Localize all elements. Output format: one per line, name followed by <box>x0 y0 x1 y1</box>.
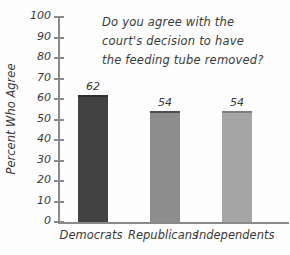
y-tick-label: 0 <box>15 214 51 227</box>
y-tick-mark <box>54 78 64 80</box>
bar-value-label: 54 <box>230 96 244 109</box>
y-tick-label: 90 <box>15 30 51 43</box>
y-tick-label: 50 <box>15 112 51 125</box>
y-tick-label: 100 <box>15 9 51 22</box>
plot-area: 0 10 20 30 40 50 60 70 <box>58 17 289 224</box>
bar-group-republicans: 54 <box>150 17 180 222</box>
y-tick-mark <box>54 160 64 162</box>
bar-democrats <box>78 95 108 222</box>
y-tick-label: 30 <box>15 153 51 166</box>
x-axis-labels: Democrats Republicans Independents <box>58 228 287 246</box>
y-tick-mark <box>54 201 64 203</box>
y-tick-label: 60 <box>15 91 51 104</box>
x-axis-label-independents: Independents <box>190 228 280 242</box>
bar-republicans <box>150 111 180 222</box>
y-tick-label: 80 <box>15 50 51 63</box>
y-tick-mark <box>54 98 64 100</box>
y-tick-mark <box>54 16 64 18</box>
y-tick-mark <box>54 119 64 121</box>
bar-group-democrats: 62 <box>78 17 108 222</box>
y-tick-label: 40 <box>15 132 51 145</box>
y-tick-mark <box>54 180 64 182</box>
y-tick-label: 10 <box>15 194 51 207</box>
y-tick-label: 70 <box>15 71 51 84</box>
bar-value-label: 54 <box>158 96 172 109</box>
bar-group-independents: 54 <box>222 17 252 222</box>
y-tick-label: 20 <box>15 173 51 186</box>
y-tick-mark <box>54 139 64 141</box>
bar-independents <box>222 111 252 222</box>
y-tick-mark <box>54 221 64 223</box>
y-tick-mark <box>54 57 64 59</box>
y-tick-mark <box>54 37 64 39</box>
bar-value-label: 62 <box>86 80 100 93</box>
bar-chart: Do you agree with the court's decision t… <box>0 0 290 255</box>
